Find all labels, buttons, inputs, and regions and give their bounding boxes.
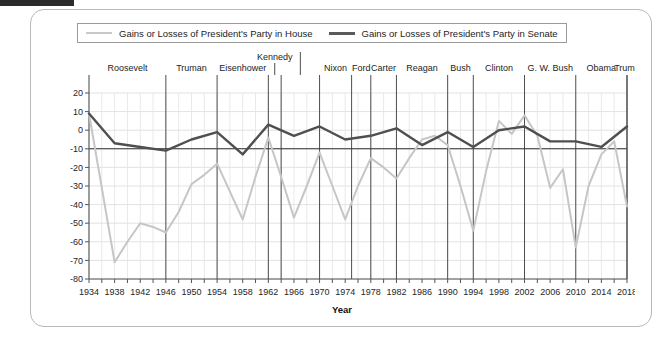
svg-text:1990: 1990 bbox=[438, 287, 458, 297]
svg-text:1998: 1998 bbox=[489, 287, 509, 297]
svg-text:-50: -50 bbox=[70, 218, 83, 228]
svg-text:1938: 1938 bbox=[105, 287, 125, 297]
chart-page: Gains or Losses of President's Party in … bbox=[0, 0, 669, 339]
svg-text:1966: 1966 bbox=[284, 287, 304, 297]
svg-text:-30: -30 bbox=[70, 181, 83, 191]
svg-text:Obama: Obama bbox=[587, 63, 617, 73]
x-axis-title: Year bbox=[332, 304, 352, 315]
svg-text:1962: 1962 bbox=[258, 287, 278, 297]
svg-text:1986: 1986 bbox=[412, 287, 432, 297]
svg-text:Trump: Trump bbox=[614, 63, 635, 73]
legend-swatch-senate-icon bbox=[329, 32, 355, 35]
svg-text:-10: -10 bbox=[70, 144, 83, 154]
svg-text:Reagan: Reagan bbox=[406, 63, 438, 73]
svg-text:Roosevelt: Roosevelt bbox=[107, 63, 148, 73]
legend-swatch-house-icon bbox=[86, 32, 112, 34]
x-axis-ticks: 1934193819421946195019541958196219661970… bbox=[79, 279, 635, 297]
svg-text:G. W. Bush: G. W. Bush bbox=[527, 63, 573, 73]
svg-text:10: 10 bbox=[73, 107, 83, 117]
svg-text:Kennedy: Kennedy bbox=[257, 52, 293, 62]
svg-text:2006: 2006 bbox=[540, 287, 560, 297]
svg-text:-60: -60 bbox=[70, 237, 83, 247]
svg-text:Carter: Carter bbox=[371, 63, 396, 73]
svg-text:1974: 1974 bbox=[335, 287, 355, 297]
svg-text:1994: 1994 bbox=[463, 287, 483, 297]
svg-text:2002: 2002 bbox=[515, 287, 535, 297]
svg-text:1982: 1982 bbox=[386, 287, 406, 297]
legend-label-house: Gains or Losses of President's Party in … bbox=[119, 28, 313, 39]
svg-text:20: 20 bbox=[73, 88, 83, 98]
svg-text:1970: 1970 bbox=[310, 287, 330, 297]
chart-legend: Gains or Losses of President's Party in … bbox=[77, 23, 567, 43]
legend-item-senate: Gains or Losses of President's Party in … bbox=[329, 28, 558, 39]
svg-text:2014: 2014 bbox=[591, 287, 611, 297]
svg-text:Johnson: Johnson bbox=[283, 49, 317, 51]
svg-text:1954: 1954 bbox=[207, 287, 227, 297]
svg-text:-20: -20 bbox=[70, 163, 83, 173]
top-accent-bar bbox=[0, 0, 74, 6]
line-chart-svg: RooseveltTrumanEisenhowerKennedyJohnsonN… bbox=[49, 49, 635, 317]
svg-text:1950: 1950 bbox=[181, 287, 201, 297]
svg-text:-70: -70 bbox=[70, 256, 83, 266]
svg-text:Nixon: Nixon bbox=[324, 63, 347, 73]
svg-text:-40: -40 bbox=[70, 200, 83, 210]
legend-item-house: Gains or Losses of President's Party in … bbox=[86, 28, 313, 39]
svg-text:2018: 2018 bbox=[617, 287, 635, 297]
y-axis-ticks: 20100-10-20-30-40-50-60-70-80 bbox=[70, 88, 89, 284]
svg-text:0: 0 bbox=[78, 125, 83, 135]
svg-text:Truman: Truman bbox=[176, 63, 207, 73]
svg-text:Eisenhower: Eisenhower bbox=[219, 63, 266, 73]
svg-text:Ford: Ford bbox=[352, 63, 371, 73]
svg-text:Bush: Bush bbox=[450, 63, 471, 73]
chart-card: Gains or Losses of President's Party in … bbox=[30, 9, 652, 327]
svg-text:1946: 1946 bbox=[156, 287, 176, 297]
svg-text:1942: 1942 bbox=[130, 287, 150, 297]
svg-text:1978: 1978 bbox=[361, 287, 381, 297]
svg-text:-80: -80 bbox=[70, 274, 83, 284]
svg-text:1958: 1958 bbox=[233, 287, 253, 297]
svg-text:2010: 2010 bbox=[566, 287, 586, 297]
president-labels: RooseveltTrumanEisenhowerKennedyJohnsonN… bbox=[107, 49, 635, 75]
plot-area: RooseveltTrumanEisenhowerKennedyJohnsonN… bbox=[49, 49, 635, 317]
legend-label-senate: Gains or Losses of President's Party in … bbox=[362, 28, 558, 39]
svg-text:Clinton: Clinton bbox=[485, 63, 513, 73]
svg-text:1934: 1934 bbox=[79, 287, 99, 297]
